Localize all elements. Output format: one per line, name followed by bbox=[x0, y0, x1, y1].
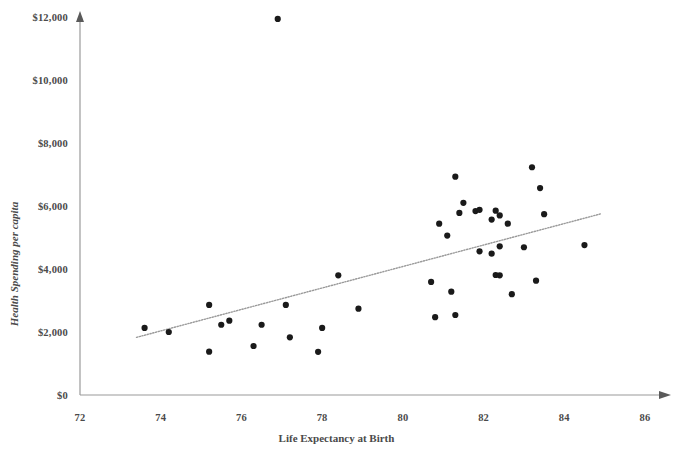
data-point bbox=[505, 221, 511, 227]
data-point bbox=[355, 306, 361, 312]
y-axis-tick-label: $12,000 bbox=[0, 12, 68, 23]
data-point bbox=[218, 322, 224, 328]
chart-axes bbox=[76, 11, 671, 399]
x-axis-tick-label: 72 bbox=[75, 412, 86, 423]
data-point bbox=[226, 318, 232, 324]
chart-plot-area bbox=[0, 0, 673, 453]
data-point bbox=[250, 343, 256, 349]
data-point bbox=[436, 221, 442, 227]
x-axis-title: Life Expectancy at Birth bbox=[0, 432, 673, 444]
x-axis-tick-label: 80 bbox=[397, 412, 408, 423]
x-axis-tick-label: 78 bbox=[317, 412, 328, 423]
x-axis-tick-label: 76 bbox=[236, 412, 247, 423]
y-axis-tick-label: $8,000 bbox=[0, 138, 68, 149]
data-point bbox=[493, 208, 499, 214]
data-point bbox=[529, 164, 535, 170]
data-point bbox=[166, 329, 172, 335]
data-point bbox=[287, 334, 293, 340]
y-axis-tick-label: $10,000 bbox=[0, 75, 68, 86]
x-axis-tick-label: 86 bbox=[640, 412, 651, 423]
data-point bbox=[476, 207, 482, 213]
data-point bbox=[521, 244, 527, 250]
data-point bbox=[428, 279, 434, 285]
data-point bbox=[259, 322, 265, 328]
data-point bbox=[541, 211, 547, 217]
trendline-segment bbox=[137, 214, 601, 337]
trendline bbox=[137, 214, 601, 337]
scatter-chart: $0$2,000$4,000$6,000$8,000$10,000$12,000… bbox=[0, 0, 673, 453]
y-axis-title: Health Spending per capita bbox=[8, 164, 20, 364]
data-point bbox=[489, 216, 495, 222]
data-point bbox=[476, 248, 482, 254]
data-point bbox=[497, 243, 503, 249]
data-point bbox=[319, 325, 325, 331]
data-point bbox=[206, 302, 212, 308]
data-point bbox=[275, 16, 281, 22]
data-point bbox=[537, 185, 543, 191]
x-axis-arrowhead bbox=[659, 391, 671, 399]
x-axis-tick-label: 82 bbox=[478, 412, 489, 423]
data-point bbox=[444, 233, 450, 239]
data-point bbox=[581, 242, 587, 248]
data-point bbox=[432, 314, 438, 320]
data-point bbox=[456, 210, 462, 216]
data-point bbox=[497, 272, 503, 278]
data-point bbox=[315, 349, 321, 355]
data-point bbox=[448, 289, 454, 295]
data-point bbox=[452, 174, 458, 180]
data-point bbox=[335, 272, 341, 278]
data-point bbox=[141, 325, 147, 331]
data-point bbox=[533, 278, 539, 284]
y-axis-arrowhead bbox=[76, 11, 84, 22]
data-point bbox=[283, 302, 289, 308]
data-point bbox=[206, 349, 212, 355]
data-point bbox=[509, 291, 515, 297]
data-point bbox=[460, 200, 466, 206]
x-axis-tick-label: 74 bbox=[155, 412, 166, 423]
y-axis-tick-label: $0 bbox=[0, 390, 68, 401]
data-point bbox=[452, 312, 458, 318]
data-point bbox=[497, 212, 503, 218]
data-point bbox=[489, 250, 495, 256]
data-points bbox=[141, 16, 587, 355]
x-axis-tick-label: 84 bbox=[559, 412, 570, 423]
